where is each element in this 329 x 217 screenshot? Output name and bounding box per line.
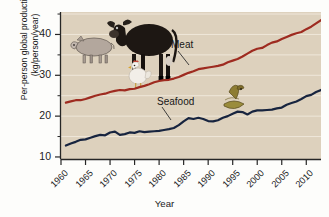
plot-canvas (61, 12, 321, 159)
x-tick-label: 2010 (289, 168, 315, 194)
y-axis-title-line-2: (kg/person/year) (30, 0, 41, 100)
x-axis-title: Year (0, 198, 329, 209)
pig-icon (71, 36, 114, 63)
seafood-leader-line (162, 107, 171, 120)
plot-area (61, 12, 321, 159)
series-layer (66, 20, 321, 145)
x-tick-label: 1980 (142, 168, 168, 194)
x-tick-label: 1970 (93, 168, 119, 194)
y-tick-label: 20 (29, 109, 51, 121)
meat-leader-line (178, 51, 189, 65)
series-line-meat (66, 20, 321, 102)
x-tick-label: 1985 (167, 168, 193, 194)
x-tick-label: 2000 (240, 168, 266, 194)
y-tick-label: 30 (29, 68, 51, 80)
series-label-meat: Meat (171, 39, 193, 50)
series-label-seafood: Seafood (157, 96, 194, 107)
fish-icon (224, 85, 244, 108)
x-tick-label: 1995 (216, 168, 242, 194)
x-tick-marks (61, 160, 306, 166)
y-axis-title-line-1: Per-person global production (19, 0, 30, 100)
chart-figure: Per-person global production (kg/person/… (0, 0, 329, 217)
x-tick-label: 2005 (265, 168, 291, 194)
y-tick-marks (55, 14, 61, 157)
y-axis-title: Per-person global production (kg/person/… (13, 0, 47, 125)
x-tick-label: 1975 (117, 168, 143, 194)
x-tick-label: 1990 (191, 168, 217, 194)
x-tick-label: 1965 (68, 168, 94, 194)
x-tick-label: 1960 (44, 168, 70, 194)
y-tick-label: 10 (29, 150, 51, 162)
y-tick-label: 40 (29, 27, 51, 39)
